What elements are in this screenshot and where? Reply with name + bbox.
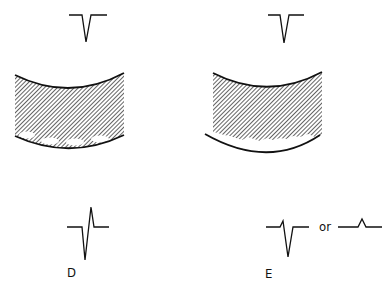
connector-or: or xyxy=(319,220,331,233)
waveform-d-top xyxy=(69,15,107,42)
waveform-e-top xyxy=(268,15,304,43)
tissue-band-d xyxy=(15,73,124,148)
diagram-canvas xyxy=(0,0,392,288)
waveform-e-alternate xyxy=(338,219,382,227)
waveform-e-bottom xyxy=(266,221,309,257)
tissue-band-e xyxy=(205,72,322,152)
panel-label-d: D xyxy=(67,266,76,279)
waveform-d-bottom xyxy=(67,207,109,260)
panel-label-e: E xyxy=(265,267,272,280)
